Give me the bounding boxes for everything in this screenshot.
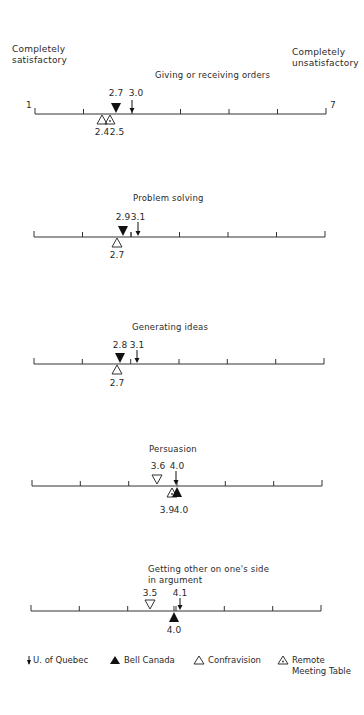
legend-bell-label: Bell Canada bbox=[124, 655, 175, 666]
chart-graphics bbox=[0, 0, 364, 715]
axis-generating-ideas bbox=[34, 358, 324, 364]
confravision-marker bbox=[112, 365, 122, 374]
axis-problem-solving bbox=[34, 231, 325, 237]
axis-getting-others-side bbox=[31, 605, 321, 611]
bell-canada-marker bbox=[111, 103, 121, 113]
quebec-arrow-marker bbox=[130, 100, 135, 113]
bell-canada-marker bbox=[172, 487, 182, 497]
quebec-arrow-marker bbox=[135, 350, 140, 363]
bell-canada-marker bbox=[169, 612, 179, 622]
bell-canada-marker bbox=[118, 226, 128, 236]
quebec-arrow-marker bbox=[178, 598, 183, 610]
markers-problem-solving bbox=[112, 222, 141, 247]
confravision-marker bbox=[152, 475, 162, 484]
bell-canada-marker bbox=[115, 353, 125, 363]
remote-table-legend-icon bbox=[278, 656, 288, 664]
markers-giving-orders bbox=[97, 100, 135, 124]
legend-quebec-label: U. of Quebec bbox=[33, 655, 88, 666]
legend-confravision-label: Confravision bbox=[208, 655, 261, 666]
confravision-legend-icon bbox=[194, 656, 204, 664]
legend-remote-label: Remote Meeting Table bbox=[292, 655, 351, 677]
quebec-arrow-marker bbox=[174, 471, 179, 485]
markers-generating-ideas bbox=[112, 350, 140, 374]
confravision-marker bbox=[112, 238, 122, 247]
confravision-marker bbox=[145, 600, 155, 609]
bell-canada-legend-icon bbox=[110, 656, 120, 664]
axis-giving-orders bbox=[35, 108, 326, 114]
quebec-arrow-marker bbox=[136, 222, 141, 236]
quebec-legend-icon bbox=[27, 656, 31, 665]
markers-getting-others-side bbox=[145, 598, 183, 622]
